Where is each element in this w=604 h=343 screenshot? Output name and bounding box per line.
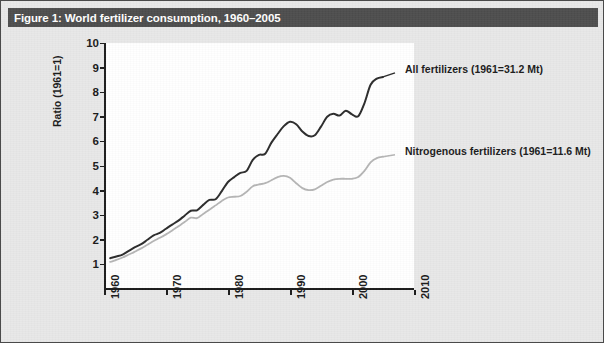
- x-tick-label: 2010: [419, 275, 431, 299]
- y-tick-mark: [100, 239, 104, 241]
- x-tick-mark: [290, 290, 292, 295]
- y-tick-mark: [100, 116, 104, 118]
- y-tick-mark: [100, 215, 104, 217]
- plot-area: [104, 43, 414, 289]
- y-tick-mark: [100, 190, 104, 192]
- y-tick-label: 8: [83, 86, 99, 98]
- y-tick-mark: [100, 43, 104, 45]
- x-tick-mark: [228, 290, 230, 295]
- y-tick-mark: [100, 141, 104, 143]
- y-tick-mark: [100, 92, 104, 94]
- y-axis-line: [104, 43, 106, 289]
- x-tick-label: 1960: [109, 275, 121, 299]
- y-tick-mark: [100, 166, 104, 168]
- y-tick-label: 4: [83, 185, 99, 197]
- y-tick-mark: [100, 67, 104, 69]
- y-tick-label: 5: [83, 160, 99, 172]
- y-tick-label: 6: [83, 135, 99, 147]
- x-tick-label: 1970: [171, 275, 183, 299]
- y-axis-title: Ratio (1961=1): [51, 56, 63, 128]
- x-tick-label: 1980: [233, 275, 245, 299]
- annotation-all-fertilizers: All fertilizers (1961=31.2 Mt): [405, 63, 543, 75]
- y-tick-label: 10: [83, 37, 99, 49]
- x-tick-mark: [352, 290, 354, 295]
- x-tick-mark: [166, 290, 168, 295]
- y-tick-mark: [100, 264, 104, 266]
- y-tick-label: 7: [83, 111, 99, 123]
- figure-container: Figure 1: World fertilizer consumption, …: [0, 0, 604, 343]
- annotation-nitrogenous-fertilizers: Nitrogenous fertilizers (1961=11.6 Mt): [405, 145, 591, 157]
- x-tick-mark: [104, 290, 106, 295]
- y-tick-label: 2: [83, 234, 99, 246]
- y-tick-label: 3: [83, 209, 99, 221]
- figure-title-bar: Figure 1: World fertilizer consumption, …: [8, 8, 598, 27]
- x-tick-label: 1990: [295, 275, 307, 299]
- figure-title: Figure 1: World fertilizer consumption, …: [8, 12, 281, 24]
- x-tick-label: 2000: [357, 275, 369, 299]
- x-tick-mark: [414, 290, 416, 295]
- chart-area: 12345678910 Ratio (1961=1) 1960197019801…: [1, 27, 604, 343]
- y-tick-label: 1: [83, 258, 99, 270]
- y-tick-label: 9: [83, 62, 99, 74]
- y-axis-tick-labels: 12345678910: [77, 27, 99, 307]
